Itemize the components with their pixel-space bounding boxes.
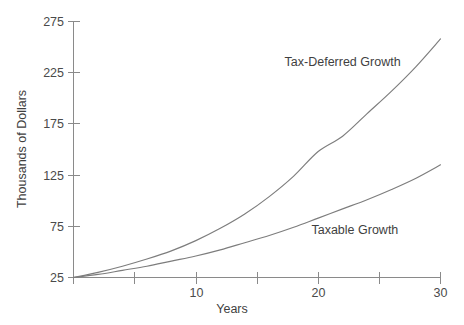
y-tick-label: 75	[50, 220, 64, 234]
y-tick-label: 225	[43, 66, 64, 80]
y-tick-label: 125	[43, 169, 64, 183]
series-line-tax-deferred-growth	[74, 39, 441, 278]
x-axis-tick-labels: 10 20 30	[190, 286, 448, 300]
series-label-taxable-growth: Taxable Growth	[311, 223, 398, 237]
chart-plot-area: 275 225 175 125 75 25 10 20 30 Years Tho…	[0, 0, 464, 325]
chart-container: 275 225 175 125 75 25 10 20 30 Years Tho…	[0, 0, 464, 325]
y-tick-label: 275	[43, 15, 64, 29]
x-tick-label: 10	[190, 286, 204, 300]
y-axis-title: Thousands of Dollars	[15, 90, 29, 208]
y-tick-label: 175	[43, 117, 64, 131]
series-label-tax-deferred-growth: Tax-Deferred Growth	[285, 55, 401, 69]
x-axis-title: Years	[216, 302, 248, 316]
x-tick-label: 30	[434, 286, 448, 300]
y-tick-label: 25	[50, 271, 64, 285]
y-axis-tick-labels: 275 225 175 125 75 25	[43, 15, 64, 285]
series-line-taxable-growth	[74, 165, 441, 278]
x-tick-label: 20	[312, 286, 326, 300]
